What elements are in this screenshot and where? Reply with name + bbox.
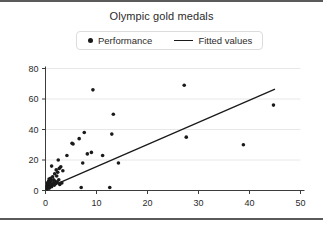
svg-text:80: 80 [28,64,38,74]
gridlines [46,69,301,161]
plot-area: 02040608001020304050 [0,0,323,229]
axis-lines [44,67,305,191]
svg-text:20: 20 [28,155,38,165]
svg-text:40: 40 [244,198,254,208]
svg-text:30: 30 [193,198,203,208]
chart-figure: Olympic gold medals Performance Fitted v… [0,0,323,229]
svg-text:20: 20 [142,198,152,208]
scatter-points [45,83,275,190]
svg-text:40: 40 [28,125,38,135]
svg-text:60: 60 [28,94,38,104]
svg-text:0: 0 [43,198,48,208]
axis-ticks [42,69,301,195]
svg-text:0: 0 [33,186,38,196]
svg-text:50: 50 [295,198,305,208]
svg-text:10: 10 [91,198,101,208]
fitted-values-line [56,89,275,184]
